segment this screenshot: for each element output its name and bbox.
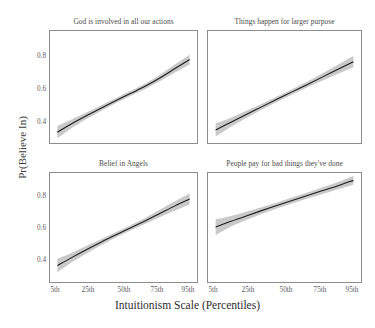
y-tick-label-top-0.4: 0.4 xyxy=(26,119,46,126)
x-tick-label-right-25th: 25th xyxy=(237,287,259,294)
panel-title-2: Things happen for larger purpose xyxy=(207,18,362,25)
x-tick-label-left-50th: 50th xyxy=(113,287,135,294)
panel-1-plot xyxy=(50,31,197,143)
panel-1 xyxy=(49,30,198,144)
panel-title-1: God is involved in all our actions xyxy=(49,18,198,25)
confidence-band-3 xyxy=(57,194,189,273)
y-tick-label-bottom-0.6: 0.6 xyxy=(26,225,46,232)
figure-canvas: Pr(Believe In) 0.8 0.6 0.4 0.8 0.6 0.4 G… xyxy=(0,0,375,328)
panel-title-4: People pay for bad things they've done xyxy=(203,160,366,167)
x-tick-label-right-95th: 95th xyxy=(341,287,363,294)
panel-2-plot xyxy=(208,31,361,143)
y-tick-label-bottom-0.8: 0.8 xyxy=(26,193,46,200)
y-tick-label-top-0.6: 0.6 xyxy=(26,86,46,93)
y-tick-label-top-0.8: 0.8 xyxy=(26,53,46,60)
y-tick-label-bottom-0.4: 0.4 xyxy=(26,257,46,264)
x-tick-label-right-50th: 50th xyxy=(275,287,297,294)
panel-2 xyxy=(207,30,362,144)
x-tick-label-left-5th: 5th xyxy=(44,287,66,294)
y-axis-label: Pr(Believe In) xyxy=(17,88,28,208)
x-tick-label-left-25th: 25th xyxy=(77,287,99,294)
panel-4 xyxy=(207,172,362,283)
panel-3 xyxy=(49,172,198,283)
panel-4-plot xyxy=(208,173,361,282)
x-tick-label-left-95th: 95th xyxy=(177,287,199,294)
x-tick-label-right-5th: 5th xyxy=(202,287,224,294)
panel-title-3: Belief in Angels xyxy=(49,160,198,167)
fit-line-2 xyxy=(216,62,354,130)
confidence-band-2 xyxy=(216,56,354,136)
x-axis-label: Intuitionism Scale (Percentiles) xyxy=(0,300,375,312)
confidence-band-4 xyxy=(216,176,354,235)
panel-3-plot xyxy=(50,173,197,282)
x-tick-label-right-75th: 75th xyxy=(309,287,331,294)
x-tick-label-left-75th: 75th xyxy=(146,287,168,294)
